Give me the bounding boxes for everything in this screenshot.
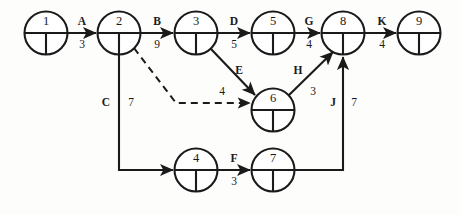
- edge-C-line: [119, 55, 173, 170]
- edge-C: C 7: [102, 55, 173, 170]
- edge-E: E 4: [211, 49, 255, 97]
- node-9-label: 9: [416, 14, 422, 28]
- node-7[interactable]: 7: [252, 149, 295, 192]
- edge-A-activity-label: A: [78, 15, 87, 27]
- edge-F-activity-label: F: [230, 152, 237, 164]
- edge-H: H 3: [288, 52, 333, 97]
- node-6[interactable]: 6: [252, 89, 295, 132]
- node-9[interactable]: 9: [398, 12, 441, 55]
- edge-dummy-line: [134, 48, 250, 103]
- node-4[interactable]: 4: [175, 149, 218, 192]
- node-3-label: 3: [193, 14, 199, 28]
- node-4-label: 4: [193, 151, 200, 165]
- node-7-label: 7: [270, 151, 276, 165]
- edge-J-activity-label: J: [330, 96, 336, 108]
- node-5[interactable]: 5: [252, 12, 295, 55]
- edge-G-duration-label: 4: [306, 38, 312, 50]
- edge-A-duration-label: 3: [79, 38, 85, 50]
- network-diagram-canvas: A 3 B 9 D 5 G 4 K 4 E: [0, 0, 460, 214]
- edge-G-activity-label: G: [305, 15, 314, 27]
- edge-D-activity-label: D: [230, 15, 238, 27]
- edge-H-activity-label: H: [294, 64, 303, 76]
- edge-dummy-2-6: [134, 48, 250, 103]
- edge-C-duration-label: 7: [128, 96, 134, 108]
- edge-B-duration-label: 9: [154, 38, 160, 50]
- edge-H-duration-label: 3: [310, 85, 316, 97]
- edge-C-activity-label: C: [102, 96, 110, 108]
- edge-J: J 7: [295, 57, 358, 170]
- node-8[interactable]: 8: [322, 12, 365, 55]
- aoa-network-svg: A 3 B 9 D 5 G 4 K 4 E: [0, 0, 460, 214]
- edge-E-activity-label: E: [235, 64, 243, 76]
- node-3[interactable]: 3: [175, 12, 218, 55]
- edge-D-duration-label: 5: [231, 38, 237, 50]
- edge-J-duration-label: 7: [351, 96, 357, 108]
- node-2-label: 2: [116, 14, 122, 28]
- edge-K-activity-label: K: [378, 15, 387, 27]
- node-1-label: 1: [43, 14, 49, 28]
- edge-K-duration-label: 4: [379, 38, 385, 50]
- node-1[interactable]: 1: [25, 12, 68, 55]
- edge-E-line: [211, 49, 255, 95]
- node-5-label: 5: [270, 14, 276, 28]
- edge-B-activity-label: B: [153, 15, 161, 27]
- edge-F-duration-label: 3: [231, 175, 237, 187]
- edge-E-duration-label: 4: [219, 85, 225, 97]
- node-2[interactable]: 2: [98, 12, 141, 55]
- node-6-label: 6: [270, 91, 276, 105]
- node-8-label: 8: [340, 14, 346, 28]
